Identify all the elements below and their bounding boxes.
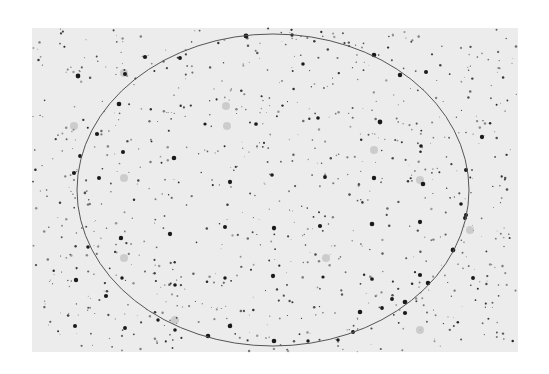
ellipse-overlay — [77, 34, 469, 346]
star-field-overlay — [0, 0, 549, 374]
